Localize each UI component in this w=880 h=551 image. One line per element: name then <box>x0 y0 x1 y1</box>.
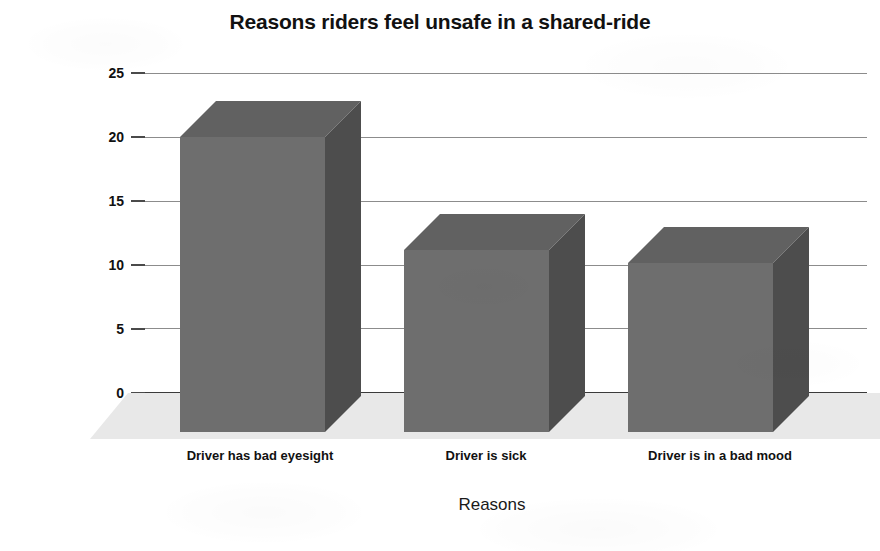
bar-side-face-3 <box>773 227 809 432</box>
chart-plot-area: Reasons riders feel unsafe in a shared-r… <box>0 0 880 551</box>
chart-title: Reasons riders feel unsafe in a shared-r… <box>0 10 880 34</box>
y-tick-label-5: 5 <box>84 321 124 337</box>
tick-mark-5 <box>131 328 145 330</box>
tick-mark-25 <box>131 72 145 74</box>
y-tick-label-10: 10 <box>84 257 124 273</box>
y-tick-label-0: 0 <box>84 385 124 401</box>
x-tick-label-driver-is-in-a-bad-mood: Driver is in a bad mood <box>600 448 840 463</box>
x-tick-label-driver-has-bad-eyesight: Driver has bad eyesight <box>140 448 380 463</box>
y-tick-label-20: 20 <box>84 129 124 145</box>
bar-front-face-1 <box>180 137 325 432</box>
tick-mark-10 <box>131 264 145 266</box>
y-tick-label-15: 15 <box>84 193 124 209</box>
gridline-25 <box>142 73 867 74</box>
tick-mark-20 <box>131 136 145 138</box>
y-tick-label-25: 25 <box>84 65 124 81</box>
bar-front-face-3 <box>628 263 773 432</box>
bar-side-face-2 <box>549 214 585 432</box>
x-axis-title: Reasons <box>142 495 842 515</box>
tick-mark-15 <box>131 200 145 202</box>
x-tick-label-driver-is-sick: Driver is sick <box>396 448 576 463</box>
bar-front-face-2 <box>404 250 549 432</box>
bar-side-face-1 <box>325 101 361 432</box>
